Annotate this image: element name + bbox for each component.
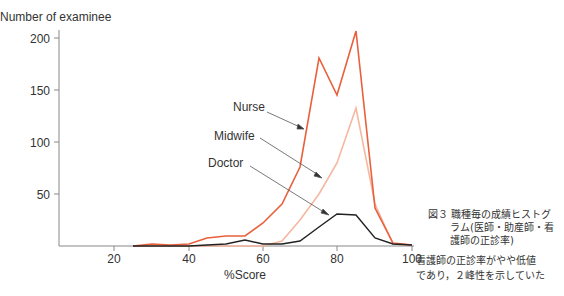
series-doctor-line (133, 214, 412, 246)
caption-title-2: ラム(医師・助産師・看 (428, 221, 564, 234)
nurse-arrow (267, 112, 302, 128)
xtick-20: 20 (107, 252, 121, 266)
doctor-annotation: Doctor (208, 156, 243, 170)
nurse-annotation: Nurse (233, 100, 265, 114)
y-axis-label: Number of examinee (0, 10, 112, 24)
figure-caption: 図３ 職種毎の成績ヒストグ ラム(医師・助産師・看 護師の正診率) (428, 208, 564, 247)
series-nurse-line (133, 31, 412, 246)
caption-title-3: 護師の正診率) (428, 234, 564, 247)
ytick-50: 50 (37, 188, 51, 202)
y-ticks (54, 38, 59, 194)
figure-label: 図３ (428, 209, 448, 220)
caption-title-1: 職種毎の成績ヒストグ (451, 209, 551, 220)
caption-body-1: 看護師の正診率がやや低値 (416, 253, 564, 268)
midwife-annotation: Midwife (214, 129, 255, 143)
ytick-200: 200 (30, 32, 50, 46)
ytick-100: 100 (30, 136, 50, 150)
caption-body: 看護師の正診率がやや低値 であり，２峰性を示していた (416, 253, 564, 283)
series-midwife-line (133, 108, 412, 246)
ytick-150: 150 (30, 84, 50, 98)
caption-line-1: 図３ 職種毎の成績ヒストグ (428, 208, 564, 221)
x-axis-label: %Score (224, 268, 266, 282)
midwife-arrow (260, 138, 320, 176)
xtick-80: 80 (330, 252, 344, 266)
score-histogram-chart: Number of examinee 200 150 100 50 20 40 … (0, 0, 564, 296)
xtick-40: 40 (182, 252, 196, 266)
caption-body-2: であり，２峰性を示していた (416, 268, 564, 283)
xtick-60: 60 (256, 252, 270, 266)
